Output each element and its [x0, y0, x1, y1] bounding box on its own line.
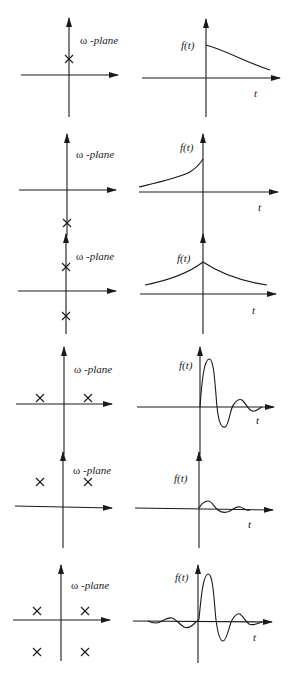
omega-plane-4: ω -plane — [16, 347, 112, 455]
pole-response-diagram: ω -plane f(t) t ω -plane f(t) t — [0, 0, 290, 684]
row-2: ω -plane f(t) t — [19, 134, 278, 236]
f-label: f(t) — [181, 39, 195, 52]
time-plot-6: f(t) t — [133, 565, 272, 663]
pole-x-icon — [84, 478, 92, 486]
pole-x-icon — [81, 648, 89, 656]
response-curve — [139, 159, 203, 187]
row-6: ω -plane f(t) t — [13, 565, 272, 663]
t-label: t — [258, 201, 262, 213]
plane-label: ω -plane — [74, 363, 112, 375]
f-label: f(t) — [174, 472, 188, 485]
t-label: t — [252, 304, 256, 316]
response-curve — [148, 574, 262, 641]
omega-plane-5: ω -plane — [15, 452, 112, 548]
omega-plane-2: ω -plane — [19, 134, 116, 236]
t-axis — [135, 508, 273, 510]
pole-x-icon — [36, 478, 44, 486]
plane-label: ω -plane — [71, 579, 109, 591]
time-plot-4: f(t) t — [137, 347, 274, 455]
row-5: ω -plane f(t) t — [15, 452, 273, 548]
time-plot-1: f(t) t — [142, 19, 280, 117]
response-curve — [199, 501, 250, 512]
time-plot-2: f(t) t — [139, 134, 278, 236]
f-label: f(t) — [175, 571, 189, 584]
omega-plane-1: ω -plane — [21, 18, 118, 117]
response-curve — [206, 45, 270, 70]
pole-x-icon — [36, 394, 44, 402]
t-axis — [133, 621, 272, 622]
plane-label: ω -plane — [73, 464, 111, 476]
f-label: f(t) — [179, 359, 193, 372]
plane-label: ω -plane — [76, 250, 114, 262]
omega-plane-6: ω -plane — [13, 565, 110, 661]
t-label: t — [248, 518, 252, 530]
row-3: ω -plane f(t) t — [18, 234, 276, 334]
pole-x-icon — [33, 648, 41, 656]
omega-plane-3: ω -plane — [18, 234, 116, 334]
f-label: f(t) — [180, 141, 194, 154]
row-1: ω -plane f(t) t — [21, 18, 280, 117]
row-4: ω -plane f(t) t — [16, 347, 274, 455]
pole-x-icon — [81, 607, 89, 615]
plane-label: ω -plane — [80, 34, 118, 46]
plane-label: ω -plane — [76, 148, 114, 160]
t-label: t — [254, 87, 258, 99]
response-curve — [200, 359, 262, 427]
f-label: f(t) — [177, 252, 191, 265]
t-label: t — [256, 414, 260, 426]
time-plot-5: f(t) t — [135, 452, 273, 548]
t-label: t — [253, 631, 257, 643]
time-plot-3: f(t) t — [140, 234, 276, 334]
pole-x-icon — [33, 607, 41, 615]
pole-x-icon — [84, 394, 92, 402]
response-curve — [145, 262, 267, 285]
